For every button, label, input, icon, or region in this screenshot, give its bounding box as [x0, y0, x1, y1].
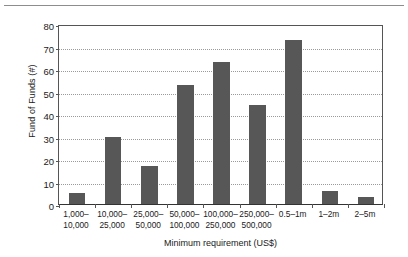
x-axis-tick-label-line: 0.5–1m [275, 209, 311, 220]
x-axis-tick-label-line: 25,000– [130, 209, 166, 220]
x-axis-tick-label: 0.5–1m [275, 209, 311, 220]
x-axis-tick-label-line: 100,000– [202, 209, 238, 220]
bar [177, 85, 194, 204]
x-axis-tick-label: 50,000–100,000 [166, 209, 202, 231]
bar [213, 62, 230, 204]
y-axis-tick-label: 20 [43, 156, 54, 167]
y-axis-title: Fund of Funds (#) [27, 21, 37, 181]
x-axis-tick-label: 25,000–50,000 [130, 209, 166, 231]
bar [249, 105, 266, 204]
y-axis-tick-label: 70 [43, 43, 54, 54]
x-axis-tick-label-line: 2–5m [347, 209, 383, 220]
x-axis-tick-label: 2–5m [347, 209, 383, 220]
bar [285, 40, 302, 204]
plot-area: 01020304050607080 [58, 25, 383, 205]
x-axis-tick-label-line: 1,000– [58, 209, 94, 220]
y-axis-tick-label: 80 [43, 21, 54, 32]
y-axis-tick-label: 0 [49, 201, 54, 212]
x-axis-tick-label-line: 100,000 [166, 220, 202, 231]
x-axis-tick-mark [95, 204, 96, 208]
x-axis-tick-mark [131, 204, 132, 208]
bar [105, 137, 122, 205]
chart-figure: Fund of Funds (#) 01020304050607080 1,00… [0, 0, 408, 257]
x-axis-tick-label-line: 10,000 [58, 220, 94, 231]
x-axis-tick-label: 1–2m [311, 209, 347, 220]
x-axis-tick-label: 250,000–500,000 [239, 209, 275, 231]
x-axis-tick-label: 10,000–25,000 [94, 209, 130, 231]
x-axis-tick-label: 1,000–10,000 [58, 209, 94, 231]
y-axis-tick-label: 50 [43, 88, 54, 99]
y-axis-tick-label: 10 [43, 178, 54, 189]
x-axis-tick-label-line: 25,000 [94, 220, 130, 231]
x-axis-tick-labels: 1,000–10,00010,000–25,00025,000–50,00050… [58, 209, 383, 241]
x-axis-tick-mark [240, 204, 241, 208]
x-axis-tick-label-line: 250,000– [239, 209, 275, 220]
bar [69, 193, 86, 204]
bar [358, 197, 375, 204]
x-axis-tick-mark [203, 204, 204, 208]
x-axis-tick-label-line: 250,000 [202, 220, 238, 231]
x-axis-tick-label: 100,000–250,000 [202, 209, 238, 231]
x-axis-tick-mark [312, 204, 313, 208]
x-axis-tick-mark [59, 204, 60, 208]
x-axis-tick-mark [384, 204, 385, 208]
x-axis-tick-label-line: 1–2m [311, 209, 347, 220]
x-axis-tick-mark [167, 204, 168, 208]
x-axis-tick-label-line: 50,000– [166, 209, 202, 220]
x-axis-tick-label-line: 50,000 [130, 220, 166, 231]
y-axis-tick-label: 60 [43, 66, 54, 77]
y-axis-tick-label: 30 [43, 133, 54, 144]
bar [322, 191, 339, 205]
bar [141, 166, 158, 204]
x-axis-tick-mark [348, 204, 349, 208]
x-axis-tick-mark [276, 204, 277, 208]
x-axis-tick-label-line: 10,000– [94, 209, 130, 220]
y-axis-tick-label: 40 [43, 111, 54, 122]
x-axis-title: Minimum requirement (US$) [58, 238, 383, 248]
x-axis-tick-label-line: 500,000 [239, 220, 275, 231]
bar-series [59, 26, 382, 204]
